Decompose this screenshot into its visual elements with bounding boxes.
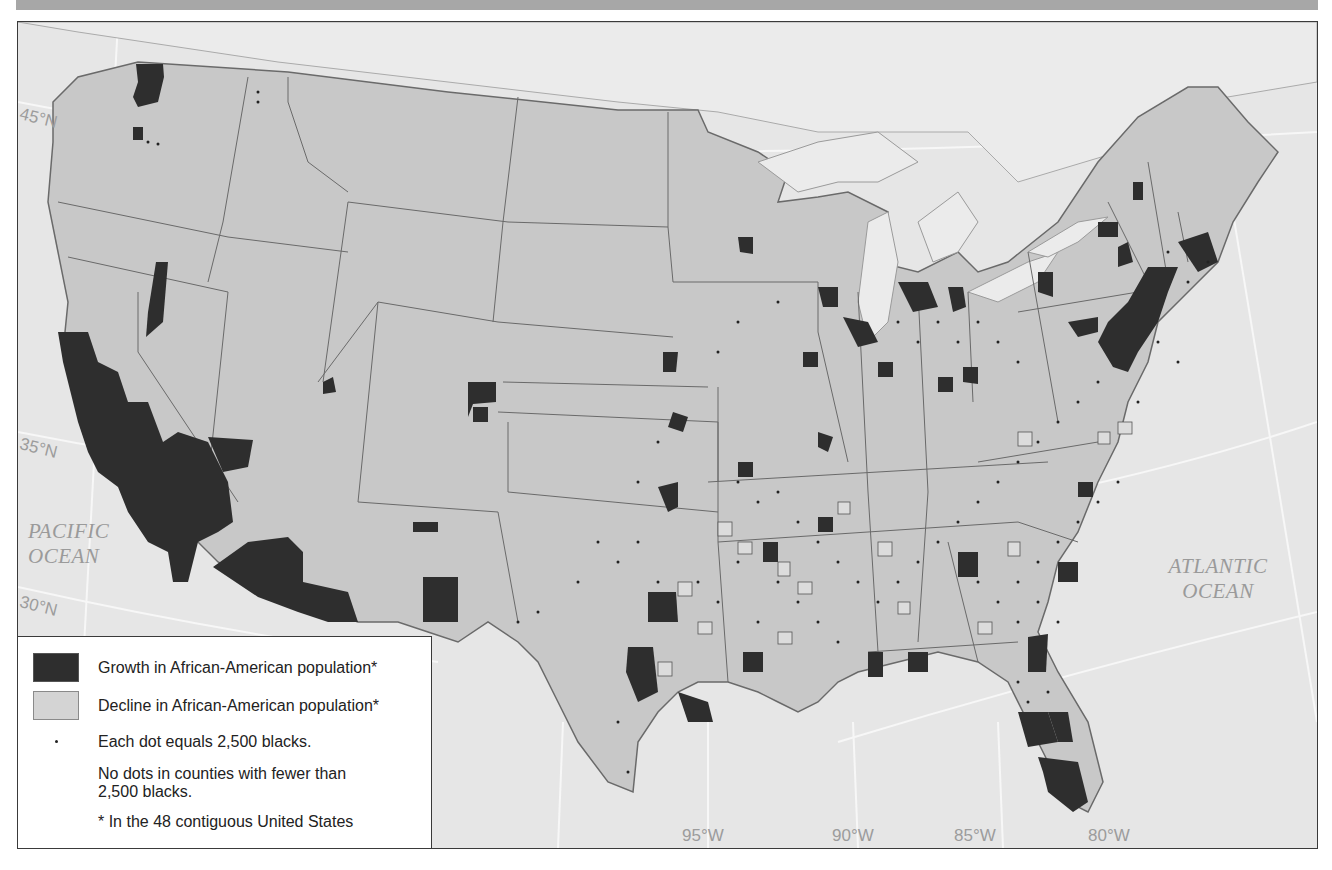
- legend-label: No dots in counties with fewer than 2,50…: [98, 765, 358, 801]
- map-frame: 45°N 35°N 30°N 95°W 90°W 85°W 80°W PACIF…: [17, 21, 1318, 849]
- longitude-label-80w: 80°W: [1088, 826, 1130, 846]
- ocean-word: OCEAN: [28, 544, 98, 569]
- longitude-label-85w: 85°W: [954, 826, 996, 846]
- atlantic-ocean-label: ATLANTIC OCEAN: [1158, 554, 1278, 604]
- pacific-word: PACIFIC: [28, 519, 98, 544]
- legend-label: Each dot equals 2,500 blacks.: [98, 733, 311, 751]
- legend-item-no-dots: No dots in counties with fewer than 2,50…: [18, 761, 431, 801]
- longitude-label-90w: 90°W: [832, 826, 874, 846]
- decline-swatch-icon: [33, 691, 79, 720]
- ocean-word: OCEAN: [1158, 579, 1278, 604]
- dot-icon: [55, 740, 58, 743]
- pacific-ocean-label: PACIFIC OCEAN: [28, 519, 98, 569]
- top-banner: [16, 0, 1318, 10]
- growth-swatch-icon: [33, 653, 79, 682]
- legend-item-growth: Growth in African-American population*: [18, 653, 431, 683]
- map-legend: Growth in African-American population* D…: [18, 636, 432, 848]
- longitude-label-95w: 95°W: [682, 826, 724, 846]
- legend-footnote: * In the 48 contiguous United States: [98, 813, 353, 831]
- legend-item-decline: Decline in African-American population*: [18, 691, 431, 721]
- legend-item-footnote: * In the 48 contiguous United States: [18, 811, 431, 833]
- legend-item-dot: Each dot equals 2,500 blacks.: [18, 731, 431, 753]
- atlantic-word: ATLANTIC: [1158, 554, 1278, 579]
- legend-label: Growth in African-American population*: [98, 659, 377, 677]
- legend-label: Decline in African-American population*: [98, 697, 379, 715]
